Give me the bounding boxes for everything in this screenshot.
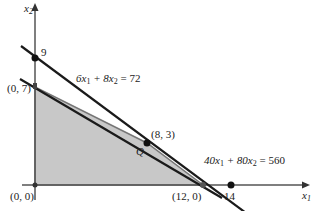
x1-axis-label: x1 [302,190,311,203]
tick-label-9: 9 [41,47,47,58]
point-label-0-7: (0, 7) [7,83,31,94]
point-8-3 [144,140,151,147]
plot-area [0,0,314,211]
point-label-8-3: (8, 3) [151,129,175,140]
tick-label-14: 14 [224,191,235,202]
equation-1-label: 6x1 + 8x2 = 72 [76,73,140,86]
point-14-0 [228,182,235,189]
point-0-0 [33,183,38,188]
point-label-0-0: (0, 0) [10,191,34,202]
x1-arrow-icon [302,182,310,189]
x2-axis-label: x2 [24,3,33,16]
point-0-9 [32,55,39,62]
point-label-q: Q [136,146,144,157]
equation-2-label: 40x1 + 80x2 = 560 [204,155,285,168]
point-12-0 [200,182,206,188]
point-0-7 [33,83,37,89]
point-label-12-0: (12, 0) [172,191,201,202]
